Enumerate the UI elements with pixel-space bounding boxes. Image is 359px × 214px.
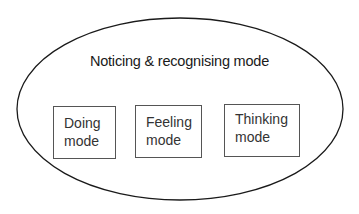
thinking-mode-label-line2: mode <box>235 128 299 146</box>
doing-mode-box: Doing mode <box>53 106 116 159</box>
feeling-mode-label-line2: mode <box>146 131 201 149</box>
thinking-mode-box: Thinking mode <box>224 104 300 157</box>
thinking-mode-label-line1: Thinking <box>235 110 299 128</box>
feeling-mode-label-line1: Feeling <box>146 113 201 131</box>
outer-mode-label: Noticing & recognising mode <box>0 53 359 69</box>
feeling-mode-box: Feeling mode <box>135 105 202 158</box>
doing-mode-label-line2: mode <box>64 132 115 150</box>
doing-mode-label-line1: Doing <box>64 114 115 132</box>
diagram-canvas: Noticing & recognising mode Doing mode F… <box>0 0 359 214</box>
